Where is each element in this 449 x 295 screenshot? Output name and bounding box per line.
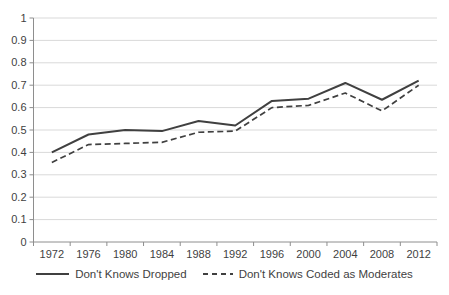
x-axis-label: 1980 bbox=[113, 248, 137, 260]
y-axis-label: 0.1 bbox=[11, 213, 26, 225]
y-axis-label: 0.7 bbox=[11, 79, 26, 91]
y-axis-label: 0.9 bbox=[11, 34, 26, 46]
legend-label-moderates: Don't Knows Coded as Moderates bbox=[239, 268, 413, 280]
y-axis-label: 1 bbox=[20, 12, 26, 24]
y-axis-label: 0.4 bbox=[11, 146, 26, 158]
x-axis-label: 1992 bbox=[223, 248, 247, 260]
series-line-dropped bbox=[52, 81, 419, 153]
y-axis-label: 0 bbox=[20, 236, 26, 248]
y-axis-label: 0.2 bbox=[11, 191, 26, 203]
series-line-moderates bbox=[52, 85, 419, 162]
y-axis-label: 0.8 bbox=[11, 56, 26, 68]
x-axis-label: 2008 bbox=[370, 248, 394, 260]
x-axis-label: 2000 bbox=[296, 248, 320, 260]
legend-label-dropped: Don't Knows Dropped bbox=[75, 268, 187, 280]
x-axis-label: 1984 bbox=[150, 248, 174, 260]
x-axis-label: 1972 bbox=[40, 248, 64, 260]
x-axis-label: 1976 bbox=[76, 248, 100, 260]
y-axis-label: 0.6 bbox=[11, 101, 26, 113]
legend: Don't Knows Dropped Don't Knows Coded as… bbox=[0, 268, 449, 280]
x-axis-label: 2004 bbox=[333, 248, 357, 260]
chart: 00.10.20.30.40.50.60.70.80.9119721976198… bbox=[0, 0, 449, 295]
x-axis-label: 1996 bbox=[260, 248, 284, 260]
x-axis-label: 1988 bbox=[186, 248, 210, 260]
legend-dashed-line-icon bbox=[203, 273, 233, 275]
legend-item-dropped: Don't Knows Dropped bbox=[36, 268, 187, 280]
y-axis-label: 0.3 bbox=[11, 168, 26, 180]
x-axis-label: 2012 bbox=[406, 248, 430, 260]
legend-solid-line-icon bbox=[36, 273, 69, 275]
y-axis-label: 0.5 bbox=[11, 124, 26, 136]
legend-item-moderates: Don't Knows Coded as Moderates bbox=[203, 268, 413, 280]
line-chart: 00.10.20.30.40.50.60.70.80.9119721976198… bbox=[0, 0, 449, 264]
